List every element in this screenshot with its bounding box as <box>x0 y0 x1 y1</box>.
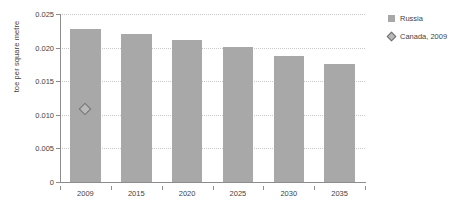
x-tick-label: 2025 <box>230 189 247 198</box>
x-tick-mark <box>365 186 366 190</box>
x-tick-label: 2009 <box>77 189 94 198</box>
x-tick-mark <box>263 186 264 190</box>
legend-label: Russia <box>400 14 423 23</box>
diamond-swatch-icon <box>387 32 397 42</box>
legend-item-canada[interactable]: Canada, 2009 <box>388 32 460 41</box>
plot-area: 00.0050.0100.0150.0200.025 <box>60 14 365 182</box>
x-axis-line <box>60 182 366 183</box>
legend-item-russia[interactable]: Russia <box>388 14 460 23</box>
square-swatch-icon <box>388 15 395 22</box>
x-tick-mark <box>60 186 61 190</box>
y-axis-line <box>60 14 61 182</box>
point-series-canada <box>60 14 365 182</box>
x-axis-labels: 200920152020202520302035 <box>60 186 366 206</box>
x-tick-mark <box>213 186 214 190</box>
x-tick-mark <box>162 186 163 190</box>
diamond-marker <box>79 103 92 116</box>
y-axis-title: toe per square metre <box>12 0 21 117</box>
x-tick-mark <box>314 186 315 190</box>
x-tick-label: 2020 <box>179 189 196 198</box>
x-tick-label: 2015 <box>128 189 145 198</box>
x-tick-mark <box>111 186 112 190</box>
x-tick-label: 2035 <box>331 189 348 198</box>
legend: Russia Canada, 2009 <box>388 14 460 50</box>
legend-label: Canada, 2009 <box>400 32 447 41</box>
bar-chart: toe per square metre 00.0050.0100.0150.0… <box>0 0 461 212</box>
x-tick-label: 2030 <box>280 189 297 198</box>
